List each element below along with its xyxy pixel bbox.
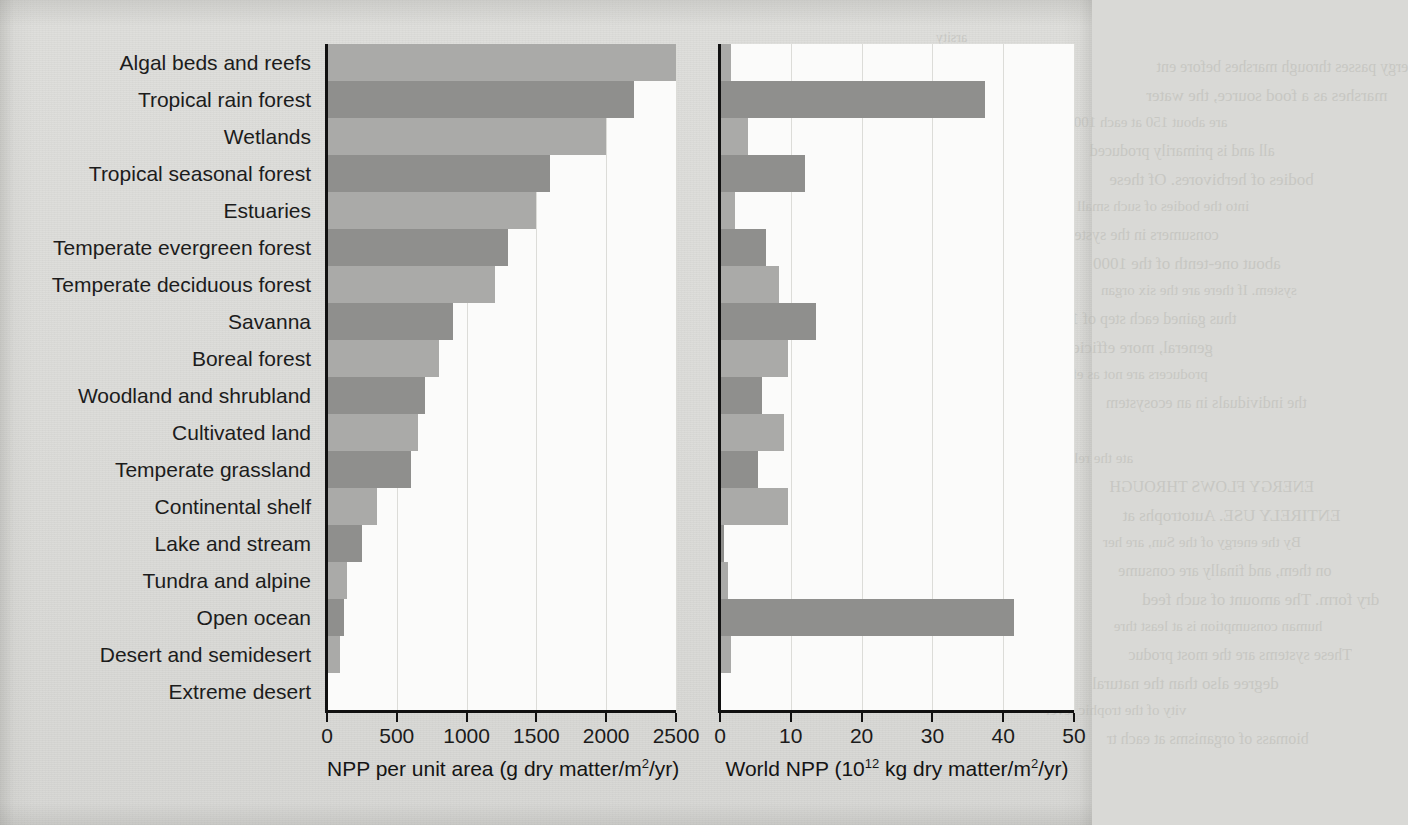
category-label: Woodland and shrubland	[0, 385, 311, 406]
chart-panel-npp-per-unit-area: 05001000150020002500NPP per unit area (g…	[327, 44, 676, 770]
bar	[327, 81, 634, 118]
ghost-bleed-text: marshes as a food source, the water	[1146, 86, 1387, 106]
ghost-bleed-text: all and is primarily produced	[1090, 142, 1275, 160]
ghost-bleed-text: bodies of herbivores. Of these	[1109, 170, 1313, 190]
bar	[327, 414, 418, 451]
category-label: Temperate grassland	[0, 459, 311, 480]
bar	[720, 44, 731, 81]
ghost-bleed-text: ENTIRELY USE. Autotrophs at	[1123, 506, 1341, 526]
category-label: Savanna	[0, 311, 311, 332]
category-label: Tundra and alpine	[0, 570, 311, 591]
bar	[720, 562, 728, 599]
plot-area	[720, 44, 1074, 710]
x-axis-tick	[719, 713, 721, 722]
bar	[720, 81, 985, 118]
x-axis-tick	[326, 713, 328, 722]
x-axis-tick	[1002, 713, 1004, 722]
bar	[327, 118, 606, 155]
bar	[327, 599, 344, 636]
y-axis-spine	[718, 44, 721, 713]
category-label: Estuaries	[0, 200, 311, 221]
bar	[720, 118, 748, 155]
x-axis-tick	[931, 713, 933, 722]
bar	[327, 377, 425, 414]
bar	[327, 636, 340, 673]
gridline	[1074, 44, 1075, 710]
bar	[720, 414, 784, 451]
bar	[327, 340, 439, 377]
bar	[327, 192, 536, 229]
x-axis-title: World NPP (1012 kg dry matter/m2/yr)	[720, 756, 1074, 781]
x-axis-tick	[605, 713, 607, 722]
category-label: Extreme desert	[0, 681, 311, 702]
category-label: Cultivated land	[0, 422, 311, 443]
bar	[720, 266, 779, 303]
bar	[720, 229, 766, 266]
ghost-bleed-text: ergy passes through marshes before ent	[1157, 58, 1408, 76]
ghost-bleed-text: on them, and finally are consume	[1118, 562, 1331, 580]
x-axis-tick	[861, 713, 863, 722]
category-label: Continental shelf	[0, 496, 311, 517]
bar	[327, 266, 495, 303]
bar	[720, 340, 788, 377]
category-label: Tropical rain forest	[0, 89, 311, 110]
bar	[327, 562, 347, 599]
x-axis-spine	[718, 710, 1074, 713]
bar	[720, 488, 788, 525]
gridline	[676, 44, 677, 710]
bar	[327, 303, 453, 340]
x-axis-tick	[466, 713, 468, 722]
bar	[720, 636, 731, 673]
category-label: Lake and stream	[0, 533, 311, 554]
ghost-bleed-text: about one-tenth of the 1000	[1093, 254, 1281, 274]
ghost-bleed-text: By the energy of the Sun, are her	[1103, 534, 1301, 551]
ghost-bleed-text: These systems are the most produc	[1129, 646, 1353, 664]
y-axis-spine	[325, 44, 328, 713]
plot-area	[327, 44, 676, 710]
bar	[720, 377, 762, 414]
ghost-bleed-text: the individuals in an ecosystem	[1106, 394, 1307, 412]
bar	[720, 303, 816, 340]
bar	[720, 192, 735, 229]
bar	[327, 44, 676, 81]
ghost-bleed-text: into the bodies of such small	[1077, 198, 1249, 215]
bar	[720, 155, 805, 192]
ghost-bleed-text: human consumption is at least thre	[1114, 618, 1323, 635]
category-label: Desert and semidesert	[0, 644, 311, 665]
x-axis-spine	[325, 710, 676, 713]
bar	[720, 451, 758, 488]
bar	[720, 599, 1014, 636]
bar	[327, 525, 362, 562]
ghost-bleed-text: system. If there are the six organ	[1101, 282, 1297, 299]
category-label: Temperate evergreen forest	[0, 237, 311, 258]
chart-panel-world-npp: 01020304050World NPP (1012 kg dry matter…	[720, 44, 1074, 770]
category-label: Algal beds and reefs	[0, 52, 311, 73]
x-axis-tick	[396, 713, 398, 722]
category-label: Tropical seasonal forest	[0, 163, 311, 184]
x-axis-tick	[535, 713, 537, 722]
ghost-bleed-text: biomass of organisms at each tr	[1107, 730, 1309, 748]
ghost-bleed-text: ENERGY FLOWS THROUGH	[1109, 478, 1313, 496]
x-axis-tick	[790, 713, 792, 722]
x-axis-title: NPP per unit area (g dry matter/m2/yr)	[327, 756, 676, 781]
x-axis-tick	[675, 713, 677, 722]
category-label: Boreal forest	[0, 348, 311, 369]
ghost-bleed-text: thus gained each step of 1	[1071, 310, 1237, 328]
category-label: Temperate deciduous forest	[0, 274, 311, 295]
x-axis-tick	[1073, 713, 1075, 722]
x-axis-tick-label: 50	[1029, 724, 1119, 748]
bar	[327, 155, 550, 192]
ghost-bleed-text: dry form. The amount of such feed	[1142, 590, 1379, 610]
bar	[327, 229, 508, 266]
ghost-bleed-text: degree also than the natural	[1092, 674, 1279, 694]
bar	[327, 488, 377, 525]
category-label: Open ocean	[0, 607, 311, 628]
gridline	[606, 44, 607, 710]
category-label: Wetlands	[0, 126, 311, 147]
bar	[327, 451, 411, 488]
